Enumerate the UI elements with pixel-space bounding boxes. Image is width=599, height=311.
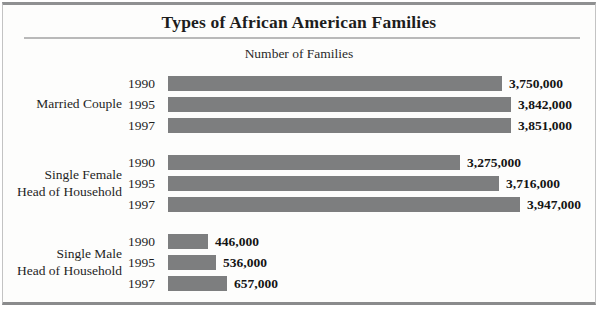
value-label: 3,750,000 bbox=[509, 76, 563, 92]
value-label: 536,000 bbox=[223, 255, 267, 271]
bar bbox=[168, 197, 520, 212]
bar-chart: Married Couple19903,750,00019953,842,000… bbox=[3, 76, 595, 291]
year-label: 1995 bbox=[122, 176, 155, 192]
year-label: 1997 bbox=[122, 197, 155, 213]
bar-row: 19903,275,000 bbox=[122, 155, 595, 170]
year-label: 1990 bbox=[122, 155, 155, 171]
year-label: 1997 bbox=[122, 118, 155, 134]
bar bbox=[168, 155, 460, 170]
value-label: 3,275,000 bbox=[467, 155, 521, 171]
bar-rows: 19903,275,00019953,716,00019973,947,000 bbox=[122, 155, 595, 212]
year-label: 1997 bbox=[122, 276, 155, 292]
value-label: 657,000 bbox=[234, 276, 278, 292]
bar bbox=[168, 176, 499, 191]
bar-group: Single FemaleHead of Household19903,275,… bbox=[3, 155, 595, 212]
year-label: 1995 bbox=[122, 255, 155, 271]
bar-row: 1997657,000 bbox=[122, 276, 595, 291]
year-label: 1995 bbox=[122, 97, 155, 113]
chart-subtitle: Number of Families bbox=[3, 46, 595, 62]
bar-row: 19953,842,000 bbox=[122, 97, 595, 112]
bar-group: Single MaleHead of Household1990446,0001… bbox=[3, 234, 595, 291]
bar bbox=[168, 97, 511, 112]
bar-row: 19973,851,000 bbox=[122, 118, 595, 133]
bar-row: 19903,750,000 bbox=[122, 76, 595, 91]
bar-rows: 19903,750,00019953,842,00019973,851,000 bbox=[122, 76, 595, 133]
bar bbox=[168, 118, 511, 133]
chart-figure: Types of African American Families Numbe… bbox=[2, 2, 596, 305]
group-label: Single FemaleHead of Household bbox=[3, 167, 122, 199]
bar-row: 19973,947,000 bbox=[122, 197, 595, 212]
bar-group: Married Couple19903,750,00019953,842,000… bbox=[3, 76, 595, 133]
year-label: 1990 bbox=[122, 76, 155, 92]
year-label: 1990 bbox=[122, 234, 155, 250]
chart-title: Types of African American Families bbox=[3, 12, 595, 33]
bar-rows: 1990446,0001995536,0001997657,000 bbox=[122, 234, 595, 291]
bar-row: 1995536,000 bbox=[122, 255, 595, 270]
title-rule bbox=[24, 37, 580, 39]
value-label: 3,716,000 bbox=[506, 176, 560, 192]
value-label: 446,000 bbox=[215, 234, 259, 250]
group-label: Married Couple bbox=[3, 96, 122, 112]
value-label: 3,947,000 bbox=[527, 197, 581, 213]
bar bbox=[168, 255, 216, 270]
bar bbox=[168, 234, 208, 249]
group-label: Single MaleHead of Household bbox=[3, 246, 122, 278]
bar bbox=[168, 76, 502, 91]
bar-row: 19953,716,000 bbox=[122, 176, 595, 191]
bar-row: 1990446,000 bbox=[122, 234, 595, 249]
value-label: 3,851,000 bbox=[518, 118, 572, 134]
value-label: 3,842,000 bbox=[518, 97, 572, 113]
bar bbox=[168, 276, 227, 291]
